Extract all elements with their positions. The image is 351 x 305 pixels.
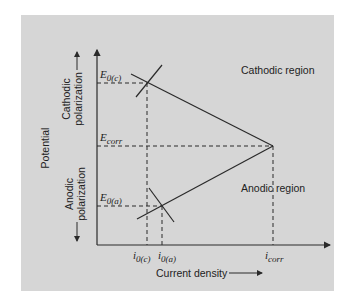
evans-diagram: Potential Cathodic polarization Anodic p… (0, 0, 351, 305)
ecorr-label: Ecorr (99, 131, 123, 146)
e0a-label: E0(a) (99, 191, 122, 206)
anodic-polarization-label-2: polarization (75, 167, 87, 221)
icorr-label: icorr (265, 249, 284, 264)
x-axis-label: Current density (156, 267, 228, 279)
cathodic-exchange-line (136, 65, 162, 97)
anodic-region-label: Anodic region (241, 182, 305, 194)
y-axis-label: Potential (39, 128, 51, 169)
cathodic-polarization-line (131, 74, 273, 146)
i0a-label: i0(a) (158, 249, 176, 264)
e0c-label: E0(c) (99, 68, 121, 83)
cathodic-polarization-label-1: Cathodic (60, 78, 72, 119)
cathodic-region-label: Cathodic region (241, 64, 315, 76)
cathodic-polarization-label-2: polarization (72, 72, 84, 126)
i0c-label: i0(c) (133, 249, 151, 264)
anodic-polarization-label-1: Anodic (63, 178, 75, 210)
